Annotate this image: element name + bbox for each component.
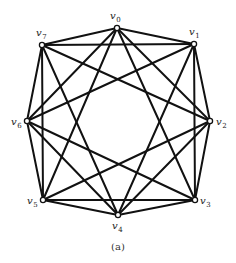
- edge-v7-v1: [42, 44, 194, 45]
- vertex-label-v7: v7: [36, 27, 47, 41]
- edge-v5-v0: [43, 28, 117, 200]
- graph-diagram: v0v1v2v3v4v5v6v7 (a): [0, 0, 236, 263]
- nodes-layer: [24, 25, 212, 217]
- vertex-v7: [39, 42, 44, 47]
- vertex-v2: [207, 118, 212, 123]
- edge-v1-v3: [194, 44, 195, 200]
- vertex-v1: [191, 41, 196, 46]
- vertex-label-v0: v0: [110, 10, 121, 24]
- vertex-v0: [114, 25, 119, 30]
- vertex-label-v6: v6: [11, 116, 22, 130]
- edge-v6-v0: [27, 28, 117, 121]
- edge-v6-v1: [27, 44, 194, 121]
- edge-v1-v4: [118, 44, 194, 215]
- edge-v1-v2: [194, 44, 210, 121]
- vertex-label-v5: v5: [27, 195, 38, 209]
- vertex-label-v2: v2: [216, 116, 227, 130]
- edge-v5-v7: [42, 45, 43, 200]
- vertex-v3: [192, 197, 197, 202]
- edge-v0-v3: [117, 28, 195, 200]
- edge-v7-v2: [42, 45, 210, 121]
- vertex-label-v1: v1: [189, 26, 200, 40]
- edge-v7-v0: [42, 28, 117, 45]
- vertex-v6: [24, 118, 29, 123]
- vertex-v5: [40, 197, 45, 202]
- graph-figure: v0v1v2v3v4v5v6v7 (a): [0, 0, 236, 263]
- vertex-label-v4: v4: [112, 220, 123, 234]
- edge-v5-v6: [27, 121, 43, 200]
- edge-v6-v7: [27, 45, 42, 121]
- edge-v4-v7: [42, 45, 118, 215]
- edge-v3-v6: [27, 121, 195, 200]
- edge-v0-v1: [117, 28, 194, 44]
- vertex-label-v3: v3: [200, 195, 211, 209]
- edge-v2-v5: [43, 121, 210, 200]
- vertex-v4: [115, 212, 120, 217]
- edges-layer: [27, 28, 210, 215]
- figure-caption: (a): [111, 241, 125, 252]
